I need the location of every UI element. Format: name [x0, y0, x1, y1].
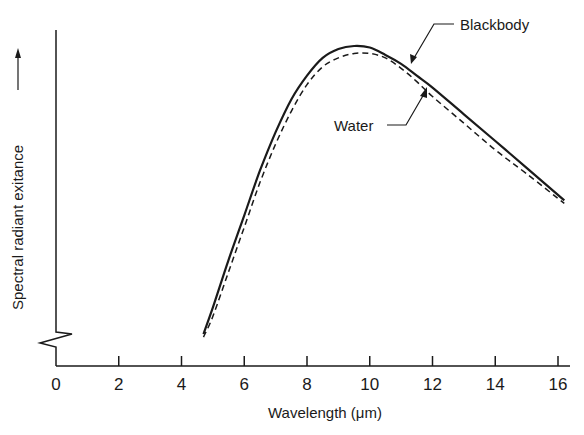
x-tick-label: 16 [549, 375, 568, 394]
x-tick-label: 4 [177, 375, 186, 394]
y-axis-break-icon [40, 326, 72, 349]
x-tick-label: 2 [114, 375, 123, 394]
y-axis-label: Spectral radiant exitance [9, 145, 26, 310]
annotation-water-label: Water [334, 117, 373, 134]
series-water-curve [204, 53, 565, 337]
blackbody-leader-line [414, 24, 454, 58]
annotation-blackbody: Blackbody [410, 16, 530, 64]
water-leader-line [387, 94, 424, 125]
x-tick-label: 10 [360, 375, 379, 394]
x-tick-label: 6 [240, 375, 249, 394]
x-axis-ticks: 0246810121416 [51, 356, 567, 394]
x-tick-label: 0 [51, 375, 60, 394]
x-tick-label: 12 [423, 375, 442, 394]
y-axis-label-group: Spectral radiant exitance [9, 48, 26, 310]
series-blackbody-curve [204, 46, 565, 334]
y-axis-up-arrowhead-icon [15, 48, 21, 58]
annotation-water: Water [334, 87, 427, 134]
series-layer [204, 46, 565, 337]
spectral-exitance-chart: Spectral radiant exitance 0246810121416 … [0, 0, 584, 435]
x-tick-label: 8 [302, 375, 311, 394]
annotation-blackbody-label: Blackbody [460, 16, 530, 33]
x-tick-label: 14 [486, 375, 505, 394]
axes: 0246810121416 [40, 30, 570, 394]
x-axis-label: Wavelength (μm) [268, 404, 382, 421]
